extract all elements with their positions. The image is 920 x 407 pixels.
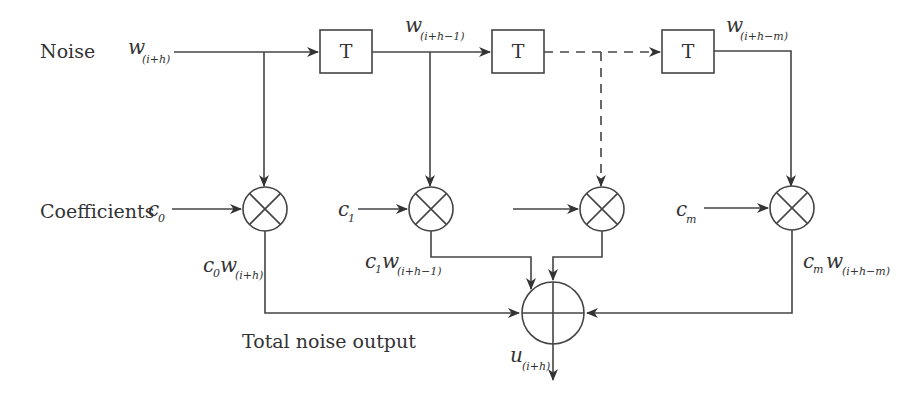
svg-text:T: T — [512, 40, 525, 62]
svg-text:w: w — [826, 249, 843, 273]
input-signal-label: w (i+h) — [128, 35, 170, 66]
svg-text:0: 0 — [158, 212, 165, 225]
multiplier-0-icon — [243, 187, 287, 231]
coefficient-c1-label: c 1 — [338, 197, 355, 225]
tap-m-wire — [714, 51, 791, 186]
coefficient-c0-label: c 0 — [148, 197, 165, 225]
noise-model-diagram: Noise w (i+h) Coefficients c 0 c 1 c m T… — [0, 0, 920, 407]
noise-label: Noise — [40, 40, 95, 62]
svg-text:0: 0 — [213, 267, 220, 280]
svg-text:(i+h): (i+h) — [522, 360, 550, 373]
svg-text:1: 1 — [375, 263, 382, 276]
delay-3-output-label: w (i+h−m) — [726, 13, 788, 43]
svg-text:(i+h−m): (i+h−m) — [740, 30, 788, 43]
multiplier-m-icon — [770, 186, 814, 230]
svg-text:(i+h−1): (i+h−1) — [420, 30, 465, 43]
delay-block-1: T — [320, 30, 372, 73]
svg-text:m: m — [686, 213, 696, 226]
delay-1-output-label: w (i+h−1) — [405, 13, 465, 43]
multiplier-j-icon — [580, 187, 624, 231]
summing-junction-icon — [522, 282, 584, 344]
multiplier-1-icon — [409, 187, 453, 231]
svg-text:(i+h−m): (i+h−m) — [842, 265, 890, 278]
delay-block-3: T — [662, 30, 714, 73]
product-1-label: c 1 w (i+h−1) — [365, 249, 442, 278]
total-noise-output-label: Total noise output — [242, 330, 416, 352]
svg-text:T: T — [682, 40, 695, 62]
svg-text:(i+h): (i+h) — [235, 269, 263, 282]
product-m-wire — [587, 230, 792, 313]
svg-text:(i+h−1): (i+h−1) — [397, 265, 442, 278]
svg-text:T: T — [340, 40, 353, 62]
product-m-label: c m w (i+h−m) — [803, 249, 890, 278]
delay-block-2: T — [492, 30, 544, 73]
product-0-label: c 0 w (i+h) — [203, 253, 263, 282]
coefficients-label: Coefficients — [40, 200, 154, 222]
svg-text:u: u — [510, 343, 523, 367]
output-signal-label: u (i+h) — [510, 343, 550, 373]
coefficient-cm-label: c m — [676, 197, 696, 226]
product-j-wire — [553, 231, 602, 280]
product-1-wire — [431, 231, 531, 289]
svg-text:(i+h): (i+h) — [142, 53, 170, 66]
svg-text:m: m — [813, 263, 823, 276]
svg-text:1: 1 — [348, 212, 355, 225]
